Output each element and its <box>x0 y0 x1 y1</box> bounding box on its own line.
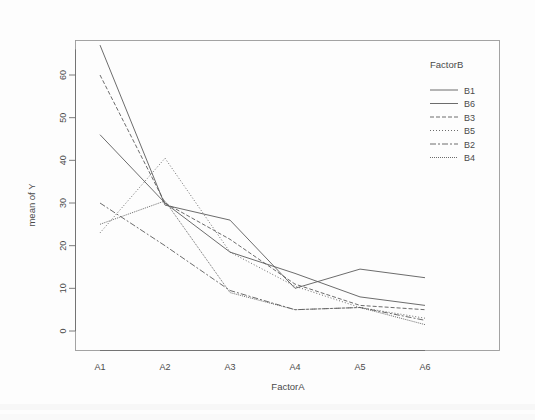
series-line-b2 <box>100 203 425 320</box>
x-axis: A1A2A3A4A5A6 <box>94 351 430 373</box>
legend-label-b5: B5 <box>464 126 475 136</box>
x-tick-label: A4 <box>289 362 300 372</box>
y-axis-title: mean of Y <box>26 183 37 227</box>
y-tick-label: 60 <box>58 70 68 80</box>
legend: FactorB B1B6B3B5B2B4 <box>430 59 475 163</box>
figure-canvas: 0102030405060 A1A2A3A4A5A6 mean of Y Fac… <box>0 0 535 420</box>
series-line-b1 <box>100 135 425 306</box>
series-line-b3 <box>100 75 425 310</box>
y-tick-label: 0 <box>58 328 68 333</box>
legend-label-b4: B4 <box>464 153 475 163</box>
y-tick-label: 20 <box>58 241 68 251</box>
x-tick-label: A3 <box>224 362 235 372</box>
x-tick-label: A5 <box>354 362 365 372</box>
legend-label-b2: B2 <box>464 140 475 150</box>
x-tick-label: A1 <box>94 362 105 372</box>
y-tick-label: 50 <box>58 113 68 123</box>
series-line-b6 <box>100 45 425 288</box>
y-tick-label: 40 <box>58 155 68 165</box>
series-line-b5 <box>100 158 425 318</box>
legend-label-b6: B6 <box>464 99 475 109</box>
y-tick-label: 30 <box>58 198 68 208</box>
x-tick-label: A6 <box>419 362 430 372</box>
interaction-plot: 0102030405060 A1A2A3A4A5A6 mean of Y Fac… <box>0 0 535 420</box>
legend-label-b1: B1 <box>464 86 475 96</box>
x-tick-label: A2 <box>159 362 170 372</box>
y-tick-label: 10 <box>58 283 68 293</box>
x-axis-title: FactorA <box>271 381 305 392</box>
series-group <box>100 45 425 325</box>
plot-border <box>76 41 500 351</box>
legend-items: B1B6B3B5B2B4 <box>430 86 475 164</box>
y-axis: 0102030405060 <box>58 49 75 333</box>
legend-label-b3: B3 <box>464 113 475 123</box>
legend-title: FactorB <box>430 59 463 70</box>
